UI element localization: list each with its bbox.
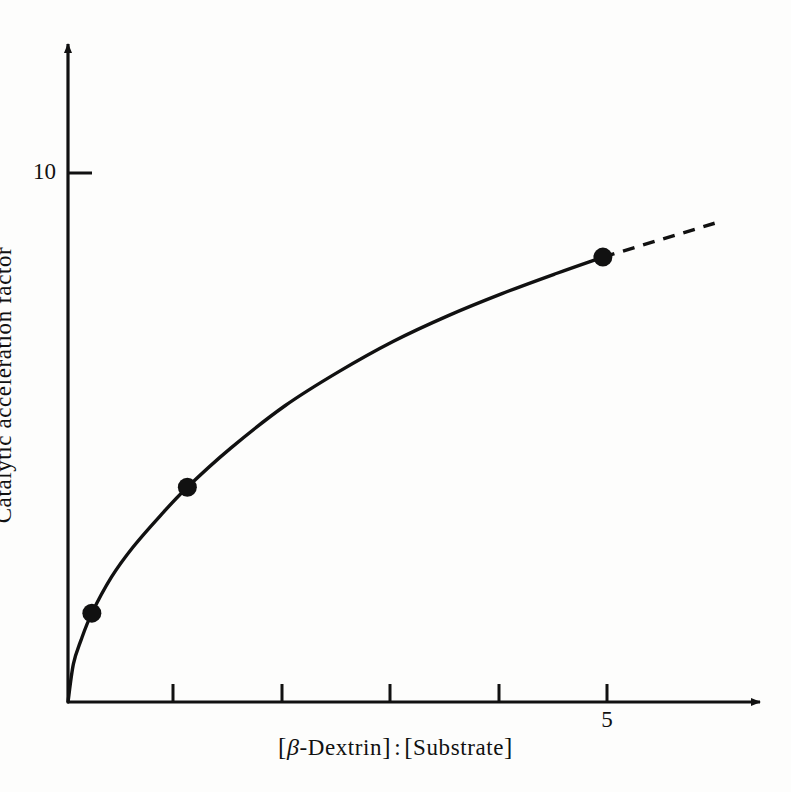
data-curve-line — [68, 257, 603, 702]
x-label-substrate-text: Substrate — [413, 735, 504, 760]
x-label-dextrin-text: Dextrin — [308, 735, 382, 760]
x-axis-tick-label-5: 5 — [577, 707, 637, 733]
data-point-marker — [593, 248, 612, 267]
data-point-marker — [82, 604, 101, 623]
data-point-markers — [82, 248, 612, 623]
x-label-ratio-colon: : — [391, 735, 404, 760]
y-axis-label: Catalytic acceleration factor — [0, 0, 40, 792]
x-label-beta-symbol: β — [287, 734, 300, 760]
x-axis-label: [β-Dextrin]:[Substrate] — [0, 733, 791, 761]
extrapolation-dashed-line — [603, 223, 715, 257]
x-label-hyphen: - — [299, 735, 307, 760]
data-point-marker — [178, 478, 197, 497]
x-label-close-bracket-1: ] — [382, 733, 391, 760]
y-axis-label-text: Catalytic acceleration factor — [0, 247, 17, 524]
x-label-open-bracket-1: [ — [278, 733, 287, 760]
chart-figure: Catalytic acceleration factor [β-Dextrin… — [0, 0, 791, 792]
x-label-close-bracket-2: ] — [504, 733, 513, 760]
y-axis-tick-label-10: 10 — [0, 159, 56, 185]
x-label-open-bracket-2: [ — [404, 733, 413, 760]
plot-canvas — [0, 0, 791, 792]
